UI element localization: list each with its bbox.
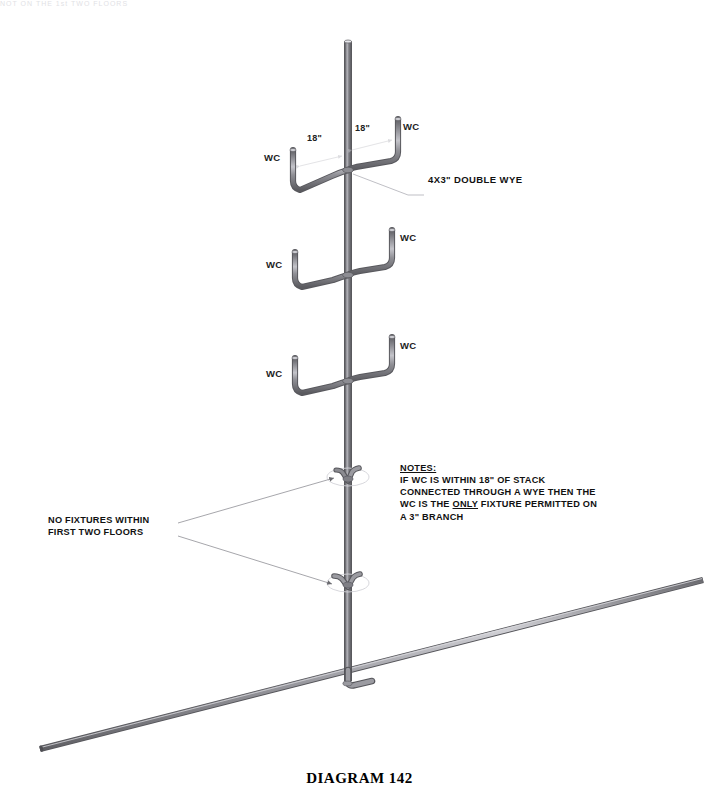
branch-2-right (348, 229, 395, 275)
wc-label-branch3-left: WC (266, 368, 282, 379)
double-wye-callout: 4X3" DOUBLE WYE (428, 174, 522, 185)
no-fixtures-callout: NO FIXTURES WITHIN FIRST TWO FLOORS (48, 514, 149, 539)
dimension-arrow-left (300, 156, 342, 166)
notes-emphasis-only: ONLY (453, 499, 479, 509)
notes-line-2: CONNECTED THROUGH A WYE THEN THE (400, 486, 597, 498)
diagram-caption: DIAGRAM 142 (0, 770, 719, 787)
diagram-page: NOT ON THE 1st TWO FLOORS (0, 0, 719, 807)
notes-line-1: IF WC IS WITHIN 18" OF STACK (400, 474, 597, 486)
wc-label-branch3-right: WC (400, 340, 416, 351)
stack-base-elbow (343, 670, 372, 686)
no-fixtures-leaders (178, 478, 334, 584)
branch-level-2 (292, 229, 395, 287)
branch-level-3 (292, 336, 395, 393)
building-drain (39, 579, 703, 752)
no-fixtures-line-2: FIRST TWO FLOORS (48, 526, 149, 538)
no-fixtures-line-1: NO FIXTURES WITHIN (48, 514, 149, 526)
wc-label-branch1-left: WC (264, 152, 280, 163)
notes-line-3-post: FIXTURE PERMITTED ON (478, 499, 597, 509)
branch-2-left (292, 251, 348, 287)
branch-3-left (292, 357, 348, 393)
dimension-arrow-right (352, 140, 392, 150)
plumbing-diagram-drawing (0, 0, 719, 807)
notes-block: NOTES: IF WC IS WITHIN 18" OF STACK CONN… (400, 462, 597, 523)
dimension-label-right: 18" (355, 123, 370, 133)
branch-1-left (290, 149, 348, 190)
notes-title: NOTES: (400, 462, 597, 474)
wc-label-branch2-left: WC (266, 259, 282, 270)
wc-label-branch1-right: WC (403, 121, 419, 132)
notes-line-3-pre: WC IS THE (400, 499, 453, 509)
dimension-label-left: 18" (307, 133, 322, 143)
double-wye-leader (353, 174, 424, 195)
branch-3-right (348, 336, 395, 381)
notes-line-4: A 3" BRANCH (400, 511, 597, 523)
wc-label-branch2-right: WC (400, 232, 416, 243)
notes-line-3: WC IS THE ONLY FIXTURE PERMITTED ON (400, 498, 597, 510)
